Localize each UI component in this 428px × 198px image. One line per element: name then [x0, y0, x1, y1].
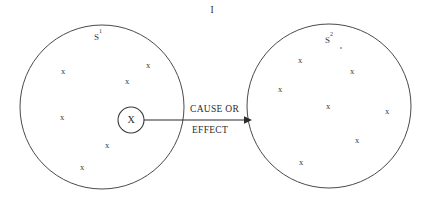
focus-element-label: X	[127, 114, 135, 125]
set-member-mark: x	[61, 66, 66, 76]
universe-label: I	[210, 5, 213, 15]
left-set-circle	[20, 25, 184, 189]
set-member-mark: x	[278, 84, 283, 94]
set-member-mark: x	[125, 76, 130, 86]
left-set-label: S1	[94, 28, 102, 42]
set-member-mark: x	[385, 106, 390, 116]
set-member-mark: x	[80, 162, 85, 172]
focus-element-group: X	[118, 107, 144, 133]
diagram-canvas: I S1 xxxxxx S2 xxxxxxx X CAUSE OR EFFECT	[0, 0, 428, 198]
left-set-members: xxxxxx	[60, 60, 151, 172]
relation-label-line1: CAUSE OR	[190, 104, 239, 114]
set-member-mark: x	[355, 135, 360, 145]
right-set-group: S2 xxxxxxx	[247, 24, 411, 188]
set-member-mark: x	[146, 60, 151, 70]
set-relation-diagram: I S1 xxxxxx S2 xxxxxxx X CAUSE OR EFFECT	[0, 0, 428, 198]
right-set-label: S2	[325, 31, 333, 45]
set-member-mark: x	[60, 112, 65, 122]
right-set-members: xxxxxxx	[278, 55, 390, 167]
cause-effect-arrow	[144, 116, 252, 123]
left-set-group: S1 xxxxxx	[20, 25, 184, 189]
set-member-mark: x	[326, 101, 331, 111]
relation-label-line2: EFFECT	[192, 125, 228, 135]
set-member-mark: x	[105, 140, 110, 150]
set-member-mark: x	[298, 55, 303, 65]
set-member-mark: x	[299, 157, 304, 167]
set-member-mark: x	[350, 66, 355, 76]
accent-dot	[340, 47, 342, 49]
